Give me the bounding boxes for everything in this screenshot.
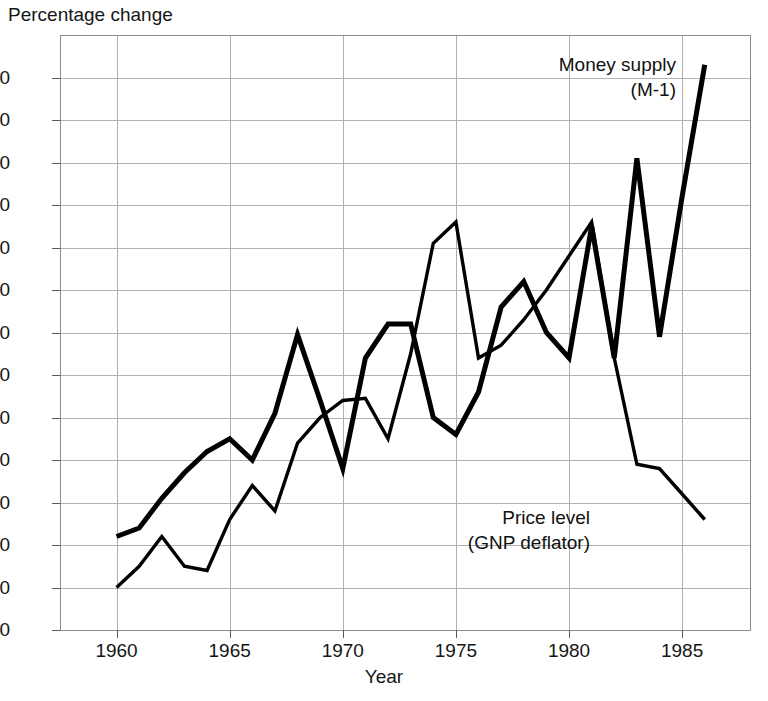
line-chart-plot — [0, 0, 768, 701]
y-tick-label: 1.0 — [0, 577, 10, 599]
y-tick-label: 6.0 — [0, 364, 10, 386]
series-line-price-level — [117, 222, 705, 588]
series-line-money-supply — [117, 65, 705, 537]
x-tick-label: 1970 — [322, 640, 364, 662]
series-annotation-money-supply-line1: Money supply — [559, 52, 676, 77]
series-annotation-price-level: Price level (GNP deflator) — [468, 505, 590, 555]
y-tick-label: 4.0 — [0, 449, 10, 471]
y-tick-label: 12.0 — [0, 109, 10, 131]
x-tick-label: 1980 — [548, 640, 590, 662]
series-annotation-price-level-line2: (GNP deflator) — [468, 530, 590, 555]
x-axis-title: Year — [0, 666, 768, 688]
y-tick-label: 8.0 — [0, 279, 10, 301]
x-tick-label: 1960 — [95, 640, 137, 662]
y-tick-label: 2.0 — [0, 534, 10, 556]
y-tick-label: 3.0 — [0, 492, 10, 514]
y-tick-label: 7.0 — [0, 322, 10, 344]
series-annotation-money-supply-line2: (M-1) — [559, 77, 676, 102]
x-tick-label: 1985 — [661, 640, 703, 662]
y-tick-label: 9.0 — [0, 237, 10, 259]
x-tick-label: 1975 — [435, 640, 477, 662]
y-tick-label: 10.0 — [0, 194, 10, 216]
series-annotation-money-supply: Money supply (M-1) — [559, 52, 676, 102]
series-annotation-price-level-line1: Price level — [468, 505, 590, 530]
y-tick-label: 0 — [0, 619, 10, 641]
y-tick-label: 5.0 — [0, 407, 10, 429]
y-tick-label: 11.0 — [0, 152, 10, 174]
x-tick-label: 1965 — [209, 640, 251, 662]
chart-container: Percentage change Money supply (M-1) Pri… — [0, 0, 768, 701]
y-tick-label: 13.0 — [0, 67, 10, 89]
